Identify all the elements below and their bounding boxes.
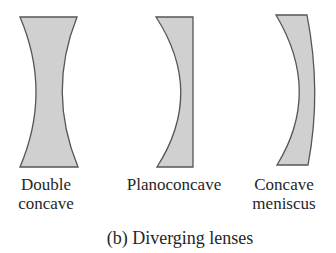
lens-diagram bbox=[0, 0, 336, 253]
planoconcave-lens-shape bbox=[156, 17, 193, 167]
figure-caption: (b) Diverging lenses bbox=[80, 228, 280, 248]
concave-meniscus-lens-shape bbox=[276, 15, 315, 165]
planoconcave-label-line1: Planoconcave bbox=[115, 175, 233, 194]
concave-meniscus-label-line1: Concave bbox=[234, 175, 334, 194]
double-concave-label: Double concave bbox=[4, 175, 88, 213]
double-concave-lens-shape bbox=[20, 17, 78, 167]
concave-meniscus-label-line2: meniscus bbox=[234, 194, 334, 213]
double-concave-label-line1: Double bbox=[4, 175, 88, 194]
planoconcave-label: Planoconcave bbox=[115, 175, 233, 194]
double-concave-label-line2: concave bbox=[4, 194, 88, 213]
concave-meniscus-label: Concave meniscus bbox=[234, 175, 334, 213]
